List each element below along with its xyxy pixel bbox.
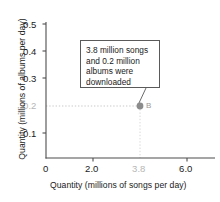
data-point-label-b: B <box>146 101 151 110</box>
x-tick-label-6.0: 6.0 <box>179 163 193 174</box>
x-tick-label-2.0: 2.0 <box>85 163 99 174</box>
x-axis-title: Quantity (millions of songs per day) <box>50 180 187 190</box>
callout-annotation: 3.8 million songs and 0.2 million albums… <box>80 40 160 88</box>
x-tick-label-0: 0 <box>43 163 48 174</box>
callout-line-3: albums were <box>86 66 155 77</box>
data-point-b[interactable] <box>137 103 144 110</box>
callout-line-2: and 0.2 million <box>86 56 155 67</box>
callout-line-1: 3.8 million songs <box>86 45 155 56</box>
x-tick-label-3.8: 3.8 <box>132 163 146 174</box>
callout-line-4: downloaded <box>86 77 155 88</box>
y-axis-title: Quantity (millions of albums per day) <box>17 9 27 169</box>
callout-leader-line <box>139 88 146 103</box>
chart-figure: 0.5 0.4 0.3 0.2 0.1 0 2.0 3.8 6.0 Quanti… <box>0 0 220 202</box>
